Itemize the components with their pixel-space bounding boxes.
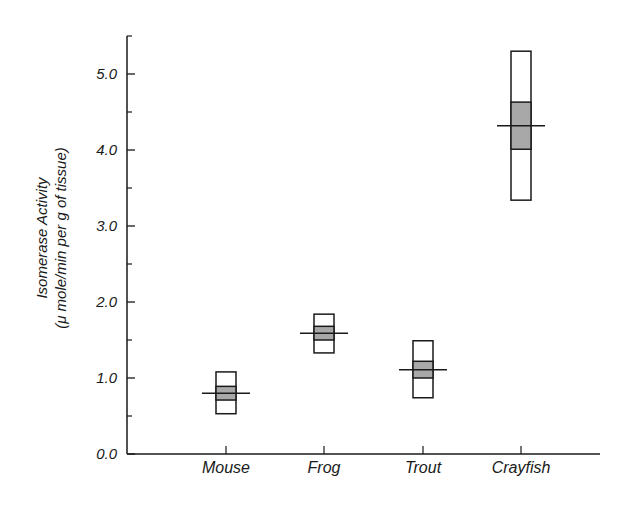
y-axis-label: Isomerase Activity (33, 176, 50, 299)
x-category-label: Trout (405, 459, 442, 476)
x-category-label: Frog (308, 459, 341, 476)
box-crayfish (497, 51, 545, 200)
box-mouse (202, 372, 250, 414)
y-tick-label: 4.0 (96, 141, 118, 158)
x-category-label: Crayfish (492, 459, 551, 476)
boxes (202, 51, 545, 414)
box-frog (300, 314, 348, 353)
box-trout (399, 341, 447, 398)
x-categories: MouseFrogTroutCrayfish (202, 446, 550, 476)
y-axis-units: (μ mole/min per g of tissue) (52, 147, 69, 329)
y-axis-title: Isomerase Activity (μ mole/min per g of … (33, 147, 69, 329)
x-category-label: Mouse (202, 459, 250, 476)
y-tick-label: 3.0 (96, 217, 118, 234)
y-ticks: 0.01.02.03.04.05.0 (95, 36, 135, 462)
y-tick-label: 0.0 (96, 445, 118, 462)
y-tick-label: 2.0 (95, 293, 118, 310)
y-tick-label: 1.0 (96, 369, 118, 386)
box-chart: Isomerase Activity (μ mole/min per g of … (0, 0, 617, 508)
y-tick-label: 5.0 (96, 65, 118, 82)
